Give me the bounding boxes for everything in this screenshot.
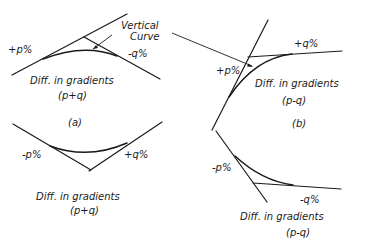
caption-line2: (p-q)	[282, 95, 306, 106]
caption-line1: Diff. in gradients	[255, 78, 339, 89]
figure-tag-b: (b)	[292, 118, 306, 129]
grade-line-right	[89, 122, 162, 171]
caption-line1: Diff. in gradients	[36, 191, 120, 202]
caption-line1: Diff. in gradients	[240, 211, 324, 222]
grade-label-right: -q%	[128, 48, 147, 59]
curve-b-bottom: -p% -q% Diff. in gradients (p-q)	[212, 131, 341, 238]
curve	[50, 143, 127, 152]
grade-label-left: +p%	[216, 65, 240, 76]
curve-b-top: +p% +q% Diff. in gradients (p-q) (b)	[212, 20, 342, 130]
grade-label-right: +q%	[294, 38, 318, 49]
pointer-line-b	[172, 33, 252, 66]
grade-label-right: +q%	[124, 149, 148, 160]
vertical-curve-label: Vertical Curve	[121, 20, 253, 67]
grade-line-right	[248, 51, 342, 57]
sag-curve-a: (a) -p% +q% Diff. in gradients (p+q)	[13, 117, 162, 216]
vertical-curve-diagram: +p% -q% Diff. in gradients (p+q) Vertica…	[0, 0, 365, 244]
grade-label-right: -q%	[300, 194, 319, 205]
grade-line-right	[84, 37, 160, 79]
grade-label-left: -p%	[22, 149, 41, 160]
figure-tag-a: (a)	[68, 117, 82, 128]
grade-label-left: +p%	[8, 44, 32, 55]
curve	[43, 50, 117, 59]
diagram-canvas: +p% -q% Diff. in gradients (p+q) Vertica…	[0, 0, 365, 244]
caption-line1: Diff. in gradients	[30, 75, 114, 86]
label-line2: Curve	[130, 31, 160, 42]
caption-line2: (p+q)	[58, 90, 87, 101]
grade-line-right	[253, 183, 341, 189]
caption-line2: (p-q)	[286, 227, 310, 238]
label-line1: Vertical	[121, 20, 159, 31]
caption-line2: (p+q)	[70, 205, 99, 216]
grade-label-left: -p%	[212, 162, 231, 173]
